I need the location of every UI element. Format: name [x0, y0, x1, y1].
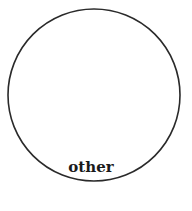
set-label: other: [68, 158, 114, 176]
set-circle: [8, 9, 180, 181]
venn-diagram: other: [0, 0, 192, 211]
